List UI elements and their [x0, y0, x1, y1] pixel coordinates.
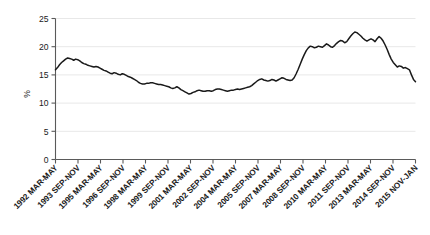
chart-figure: 0510152025 1992 MAR-MAY1993 SEP-NOV1995 …	[0, 0, 430, 235]
y-tick-label: 15	[39, 70, 49, 80]
y-axis-title-group: %	[22, 90, 32, 98]
y-axis-title: %	[22, 90, 32, 98]
line-chart: 0510152025 1992 MAR-MAY1993 SEP-NOV1995 …	[0, 0, 430, 235]
y-tick-label: 20	[39, 42, 49, 52]
y-tick-label: 10	[39, 98, 49, 108]
y-tick-label: 25	[39, 14, 49, 24]
y-tick-label: 0	[44, 155, 49, 165]
y-tick-label: 5	[44, 127, 49, 137]
